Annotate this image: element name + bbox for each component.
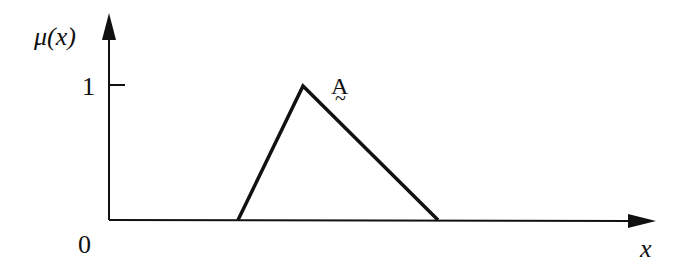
mu-symbol: μ [34, 22, 47, 51]
x-axis-label: x [640, 236, 652, 262]
y-tick-label: 1 [82, 74, 95, 100]
fuzzy-set-tilde: ~ [335, 88, 346, 108]
origin-label: 0 [78, 232, 91, 258]
y-axis-label: μ(x) [34, 24, 76, 50]
x-axis-arrow-icon [628, 214, 656, 228]
membership-diagram [0, 0, 684, 274]
x-axis [109, 220, 632, 221]
mu-argument: (x) [47, 22, 76, 51]
y-axis-arrow-icon [102, 13, 116, 40]
